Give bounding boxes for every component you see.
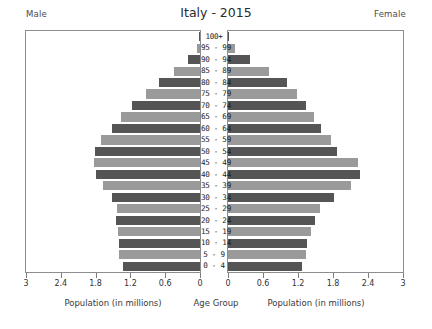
male-bar [174, 67, 200, 76]
male-axis-tick [26, 273, 27, 278]
male-bar [116, 216, 200, 225]
female-bar [228, 193, 334, 202]
male-bar-row [26, 260, 200, 271]
age-group-label: 65 - 69 [201, 111, 227, 122]
male-bar-row [26, 88, 200, 99]
male-bar-row [26, 123, 200, 134]
male-bar-row [26, 42, 200, 53]
female-bar-row [228, 237, 403, 248]
female-x-axis: 00.61.21.82.43 [228, 273, 403, 291]
female-legend-label: Female [374, 9, 406, 19]
population-pyramid-chart: Male Italy - 2015 Female 100+95 - 9990 -… [0, 0, 432, 329]
male-bar-row [26, 31, 200, 42]
age-group-label: 60 - 64 [201, 123, 227, 134]
age-group-label: 75 - 79 [201, 88, 227, 99]
male-bar [119, 250, 200, 259]
male-bar-row [26, 226, 200, 237]
male-bar-row [26, 65, 200, 76]
male-bar [119, 239, 200, 248]
male-bar-group [26, 31, 200, 272]
age-group-axis-labels: 100+95 - 9990 - 9485 - 8980 - 8475 - 797… [201, 31, 227, 272]
female-bar-row [228, 134, 403, 145]
female-bar-row [228, 77, 403, 88]
male-bar-row [26, 215, 200, 226]
age-group-label: 5 - 9 [201, 249, 227, 260]
female-axis-tick-label: 2.4 [362, 279, 375, 288]
female-axis-tick-label: 0.6 [257, 279, 270, 288]
female-axis-tick [263, 273, 264, 278]
male-axis-tick-label: 1.8 [89, 279, 102, 288]
age-group-label: 10 - 14 [201, 237, 227, 248]
female-bar [228, 262, 302, 271]
male-axis-tick [130, 273, 131, 278]
female-bar-row [228, 226, 403, 237]
female-bar-row [228, 123, 403, 134]
age-group-label: 0 - 4 [201, 260, 227, 271]
age-group-label: 80 - 84 [201, 77, 227, 88]
male-bar-row [26, 249, 200, 260]
female-axis-tick-label: 0 [225, 279, 230, 288]
male-x-axis: 32.41.81.20.60 [26, 273, 200, 291]
male-bar-row [26, 146, 200, 157]
female-bar [228, 227, 311, 236]
female-bar [228, 67, 269, 76]
male-axis-tick-label: 2.4 [54, 279, 67, 288]
male-axis-caption: Population (in millions) [64, 298, 161, 308]
age-group-label: 85 - 89 [201, 65, 227, 76]
male-bar-row [26, 134, 200, 145]
center-axis-caption: Age Group [193, 298, 238, 308]
female-bar [228, 78, 287, 87]
female-axis-tick-label: 3 [400, 279, 405, 288]
female-bar-row [228, 157, 403, 168]
male-bar [117, 204, 200, 213]
male-axis-tick [165, 273, 166, 278]
female-bar-row [228, 203, 403, 214]
male-bar-row [26, 77, 200, 88]
male-bar-row [26, 180, 200, 191]
male-bar [121, 112, 200, 121]
male-bar-row [26, 192, 200, 203]
female-axis-tick-label: 1.8 [327, 279, 340, 288]
male-bar [197, 44, 200, 53]
age-group-label: 40 - 44 [201, 169, 227, 180]
female-bar [228, 181, 351, 190]
male-bar-row [26, 203, 200, 214]
female-bar [228, 112, 314, 121]
age-group-label: 15 - 19 [201, 226, 227, 237]
male-bar [96, 170, 200, 179]
male-bar [132, 101, 200, 110]
male-bar [188, 55, 200, 64]
male-bar [123, 262, 200, 271]
male-axis-tick-label: 0 [197, 279, 202, 288]
female-bar-row [228, 169, 403, 180]
male-bar [94, 158, 200, 167]
male-axis-tick-label: 1.2 [124, 279, 137, 288]
female-bar-row [228, 249, 403, 260]
age-group-label: 25 - 29 [201, 203, 227, 214]
male-bar [118, 227, 200, 236]
female-bar [228, 250, 306, 259]
female-axis-tick [403, 273, 404, 278]
female-bar-row [228, 111, 403, 122]
female-axis-tick [228, 273, 229, 278]
male-bar-row [26, 237, 200, 248]
male-bar-row [26, 54, 200, 65]
female-bar-row [228, 31, 403, 42]
female-bar-row [228, 146, 403, 157]
male-bar [146, 89, 200, 98]
age-group-label: 70 - 74 [201, 100, 227, 111]
male-axis-tick-label: 3 [23, 279, 28, 288]
age-group-label: 55 - 59 [201, 134, 227, 145]
male-bar-row [26, 111, 200, 122]
female-bar-row [228, 88, 403, 99]
age-group-label: 45 - 49 [201, 157, 227, 168]
female-bar-row [228, 54, 403, 65]
male-axis-tick [61, 273, 62, 278]
female-axis-tick [298, 273, 299, 278]
female-bar [228, 158, 358, 167]
male-bar-row [26, 157, 200, 168]
female-bar-row [228, 192, 403, 203]
age-group-label: 95 - 99 [201, 42, 227, 53]
male-bar [103, 181, 200, 190]
female-bar [228, 147, 337, 156]
